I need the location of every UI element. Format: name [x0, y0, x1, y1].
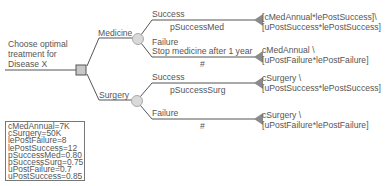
root-title-line: treatment for [8, 49, 57, 59]
outcome-sublabel: Stop medicine after 1 year [152, 46, 252, 56]
chance-node-medicine-icon[interactable] [133, 34, 144, 45]
root-title-line: Choose optimal [8, 39, 68, 49]
payoff-line: [uPostFailure*lePostFailure] [262, 120, 369, 130]
payoff-line: cSurgery \ [262, 110, 301, 120]
payoff-line: [uPostSuccess*lePostSuccess] [262, 83, 381, 93]
payoff-line: [uPostFailure*lePostFailure] [262, 55, 369, 65]
outcome-probability: # [200, 121, 205, 131]
root-title-line: Disease X [8, 59, 47, 69]
outcome-probability: pSuccessMed [170, 22, 224, 32]
outcome-probability: pSuccessSurg [170, 85, 225, 95]
chance-node-surgery-icon[interactable] [132, 96, 143, 107]
parameters-box[interactable]: cMedAnnual=7K cSurgery=50K lePostFailure… [5, 121, 85, 181]
payoff-line: [uPostSuccess*lePostSuccess] [262, 22, 381, 32]
outcome-label: Success [152, 9, 184, 19]
payoff-line: cSurgery \ [262, 73, 301, 83]
decision-node-icon[interactable] [76, 65, 86, 75]
branch-label-surgery: Surgery [99, 90, 129, 100]
payoff-line: [cMedAnnual*lePostSuccess]\ [262, 12, 377, 22]
payoff-line: cMedAnnual \ [262, 45, 315, 55]
outcome-probability: # [200, 59, 205, 69]
outcome-label: Success [152, 72, 184, 82]
outcome-label: Failure [152, 108, 178, 118]
parameter-item: uPostSuccess=0.85 [8, 173, 82, 180]
branch-label-medicine: Medicine [98, 28, 132, 38]
